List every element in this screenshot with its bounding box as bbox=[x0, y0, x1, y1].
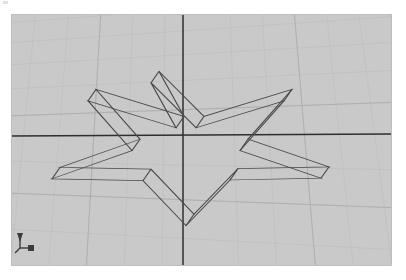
axis-indicator-gizmo bbox=[13, 228, 43, 254]
cad-application-window: persp bbox=[0, 0, 406, 280]
gizmo-y-axis bbox=[15, 248, 20, 253]
star-bottom-face bbox=[52, 83, 321, 226]
gizmo-x-arrow bbox=[28, 245, 34, 251]
corner-artifact bbox=[3, 1, 8, 4]
perspective-viewport[interactable]: persp bbox=[11, 14, 392, 266]
gizmo-z-arrow bbox=[17, 233, 23, 242]
star-wireframe-model[interactable] bbox=[12, 15, 392, 266]
star-top-face bbox=[60, 71, 329, 214]
